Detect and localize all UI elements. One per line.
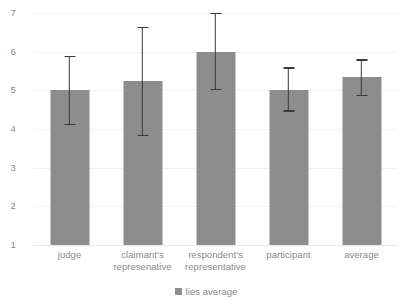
y-axis-tick-label: 4: [0, 124, 16, 134]
legend-swatch-lies-average: [175, 288, 182, 295]
legend-label-lies-average: lies average: [186, 287, 238, 297]
x-axis-label-line: represenative: [106, 261, 179, 273]
x-axis-label-3: participant: [252, 249, 325, 261]
x-axis-label-line: participant: [252, 249, 325, 261]
y-axis-tick-label: 5: [0, 85, 16, 95]
y-axis-tick-label: 3: [0, 163, 16, 173]
error-bar-cap-bottom: [283, 110, 294, 111]
y-axis-tick-label: 6: [0, 47, 16, 57]
bar-group: [252, 13, 325, 245]
x-axis-label-1: claimant'srepresenative: [106, 249, 179, 272]
bar-group: [106, 13, 179, 245]
x-axis-labels: judgeclaimant'srepresenativerespondent's…: [33, 249, 398, 283]
error-bar-stem: [361, 59, 362, 96]
error-bar-stem: [142, 27, 143, 136]
bar-group: [33, 13, 106, 245]
plot-area: 1234567: [33, 13, 398, 245]
x-axis-label-4: average: [325, 249, 398, 261]
x-axis-label-line: judge: [33, 249, 106, 261]
y-axis-tick-label: 2: [0, 201, 16, 211]
gridline-1: [33, 245, 398, 246]
x-axis-label-line: representative: [179, 261, 252, 273]
error-bar: [356, 59, 367, 96]
error-bar: [64, 56, 75, 126]
y-axis-tick-label: 7: [0, 8, 16, 18]
bar-chart: 1234567 judgeclaimant'srepresenativeresp…: [0, 0, 412, 308]
error-bar-stem: [288, 67, 289, 111]
x-axis-label-line: respondent's: [179, 249, 252, 261]
error-bar-stem: [215, 13, 216, 90]
error-bar-stem: [69, 56, 70, 126]
error-bar-cap-bottom: [64, 124, 75, 125]
error-bar-cap-bottom: [356, 95, 367, 96]
error-bar: [283, 67, 294, 111]
chart-legend: lies average: [0, 287, 412, 297]
x-axis-label-0: judge: [33, 249, 106, 261]
error-bar: [137, 27, 148, 136]
x-axis-label-line: claimant's: [106, 249, 179, 261]
error-bar-cap-bottom: [137, 135, 148, 136]
bar[interactable]: [269, 90, 308, 245]
bar-group: [179, 13, 252, 245]
error-bar: [210, 13, 221, 90]
bar-group: [325, 13, 398, 245]
x-axis-label-2: respondent'srepresentative: [179, 249, 252, 272]
x-axis-label-line: average: [325, 249, 398, 261]
error-bar-cap-bottom: [210, 89, 221, 90]
y-axis-tick-label: 1: [0, 240, 16, 250]
bar[interactable]: [342, 77, 381, 245]
